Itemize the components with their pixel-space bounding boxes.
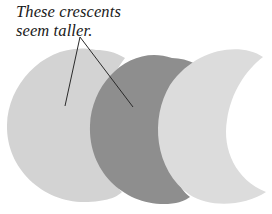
caption-line-1: These crescents: [16, 2, 121, 21]
illusion-figure: These crescents seem taller.: [0, 0, 272, 214]
annotation-caption: These crescents seem taller.: [16, 2, 121, 40]
caption-line-2: seem taller.: [16, 21, 121, 40]
